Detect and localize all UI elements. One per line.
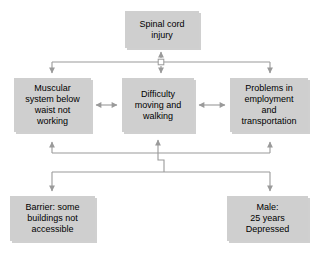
- node-male-depressed: Male: 25 years Depressed: [227, 196, 308, 241]
- connector-junction-top: [158, 59, 164, 65]
- connector-bottom-bus-jog: [158, 153, 164, 172]
- node-barrier-buildings: Barrier: some buildings not accessible: [10, 196, 95, 241]
- node-label-problems-employment: Problems in employment and transportatio…: [241, 83, 296, 127]
- node-label-difficulty-moving: Difficulty moving and walking: [135, 89, 182, 122]
- node-label-male-depressed: Male: 25 years Depressed: [246, 202, 290, 235]
- node-muscular-system: Muscular system below waist not working: [14, 78, 91, 132]
- node-label-barrier-buildings: Barrier: some buildings not accessible: [25, 202, 79, 235]
- diagram-canvas: Spinal cord injury Muscular system below…: [0, 0, 322, 253]
- node-spinal-cord-injury: Spinal cord injury: [125, 11, 199, 48]
- node-label-spinal-cord-injury: Spinal cord injury: [139, 19, 184, 41]
- node-label-muscular-system: Muscular system below waist not working: [25, 83, 80, 127]
- node-problems-employment: Problems in employment and transportatio…: [230, 78, 308, 132]
- node-difficulty-moving: Difficulty moving and walking: [122, 78, 194, 132]
